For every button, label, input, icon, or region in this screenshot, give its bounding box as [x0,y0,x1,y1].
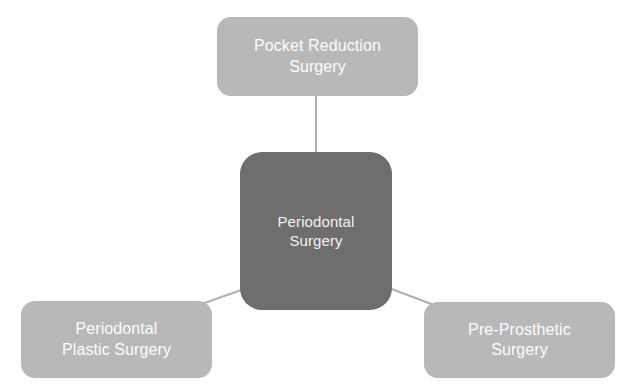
node-periodontal-surgery-label: Periodontal Surgery [272,212,361,250]
node-pocket-reduction-surgery-label: Pocket Reduction Surgery [248,36,387,77]
node-periodontal-plastic-surgery[interactable]: Periodontal Plastic Surgery [21,301,212,378]
node-pocket-reduction-surgery[interactable]: Pocket Reduction Surgery [217,17,418,96]
node-pre-prosthetic-surgery[interactable]: Pre-Prosthetic Surgery [424,302,615,378]
connector-root-to-pre-prosthetic-line [389,288,434,305]
node-periodontal-plastic-surgery-label: Periodontal Plastic Surgery [56,319,177,360]
diagram-canvas: Pocket Reduction Surgery Periodontal Sur… [0,0,631,391]
node-periodontal-surgery[interactable]: Periodontal Surgery [240,152,392,310]
node-pre-prosthetic-surgery-label: Pre-Prosthetic Surgery [462,320,577,361]
